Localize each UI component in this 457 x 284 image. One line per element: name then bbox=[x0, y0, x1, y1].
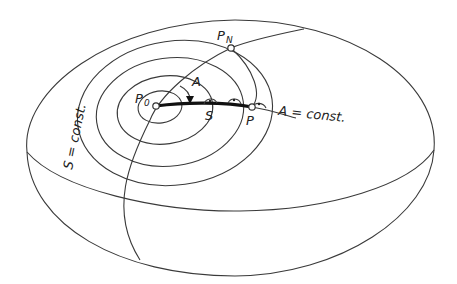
label-distance-const: S = const. bbox=[60, 102, 89, 170]
label-pn: P bbox=[217, 28, 225, 43]
right-angle-dot-2 bbox=[233, 99, 235, 101]
diagram-canvas: P 0 P N P A S A = const. S = const. bbox=[0, 0, 457, 284]
label-azimuth-const: A = const. bbox=[277, 103, 347, 125]
distance-circle-3 bbox=[89, 48, 251, 176]
ellipsoid-diagram: P 0 P N P A S A = const. S = const. bbox=[0, 0, 457, 284]
point-p bbox=[249, 104, 255, 110]
distance-circle-2 bbox=[113, 70, 218, 151]
label-pn-sub: N bbox=[226, 35, 233, 45]
label-p: P bbox=[246, 113, 254, 128]
equator-curve bbox=[27, 150, 434, 211]
point-p0 bbox=[153, 103, 159, 109]
label-p0-sub: 0 bbox=[144, 98, 150, 108]
right-angle-dot-1 bbox=[209, 100, 211, 102]
meridian-curve bbox=[124, 29, 304, 260]
label-distance: S bbox=[205, 108, 213, 123]
ellipsoid-outline bbox=[27, 20, 435, 276]
label-azimuth: A bbox=[191, 74, 201, 89]
right-angle-dot-3 bbox=[258, 103, 260, 105]
label-p0: P bbox=[135, 91, 143, 106]
point-pn bbox=[228, 45, 234, 51]
